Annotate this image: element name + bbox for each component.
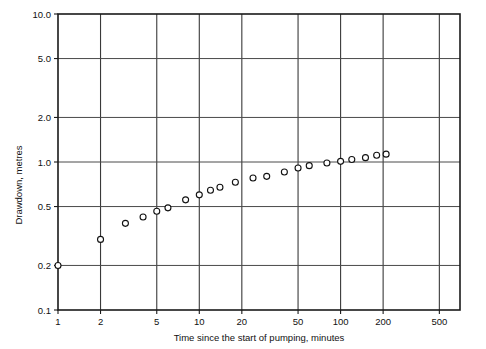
data-point (295, 165, 301, 171)
y-tick-label: 0.2 (38, 260, 51, 271)
data-point (122, 220, 128, 226)
x-axis-title: Time since the start of pumping, minutes (174, 332, 345, 343)
data-point (306, 163, 312, 169)
y-tick-label: 10.0 (33, 9, 52, 20)
data-point (183, 197, 189, 203)
x-tick-label: 10 (194, 316, 205, 327)
data-point (383, 151, 389, 157)
y-tick-label: 1.0 (38, 157, 51, 168)
data-point (374, 152, 380, 158)
y-axis-title: Drawdown, metres (13, 145, 24, 224)
data-point (207, 187, 213, 193)
x-tick-label: 5 (154, 316, 159, 327)
data-point (250, 175, 256, 181)
data-point (98, 236, 104, 242)
y-tick-label: 0.1 (38, 305, 51, 316)
drawdown-time-scatter-plot: 125102050100200500 10.05.02.01.00.50.20.… (0, 0, 486, 349)
data-point (338, 158, 344, 164)
data-point (281, 169, 287, 175)
y-axis-tick-labels: 10.05.02.01.00.50.20.1 (33, 9, 52, 316)
grid-lines (58, 14, 460, 310)
data-point (362, 155, 368, 161)
data-point (232, 179, 238, 185)
y-tick-label: 5.0 (38, 53, 51, 64)
x-tick-label: 200 (375, 316, 391, 327)
data-point (196, 192, 202, 198)
data-point (349, 156, 355, 162)
chart-figure: 125102050100200500 10.05.02.01.00.50.20.… (0, 0, 486, 349)
data-point (154, 208, 160, 214)
data-point (55, 262, 61, 268)
x-tick-label: 500 (431, 316, 447, 327)
y-tick-label: 2.0 (38, 112, 51, 123)
data-point (217, 184, 223, 190)
data-point (140, 214, 146, 220)
x-axis-tick-labels: 125102050100200500 (55, 316, 447, 327)
x-tick-label: 50 (293, 316, 304, 327)
x-tick-label: 100 (333, 316, 349, 327)
y-tick-label: 0.5 (38, 201, 51, 212)
data-point (324, 160, 330, 166)
data-points (55, 151, 389, 268)
x-tick-label: 20 (237, 316, 248, 327)
data-point (264, 173, 270, 179)
x-tick-label: 2 (98, 316, 103, 327)
data-point (165, 205, 171, 211)
x-tick-label: 1 (55, 316, 60, 327)
